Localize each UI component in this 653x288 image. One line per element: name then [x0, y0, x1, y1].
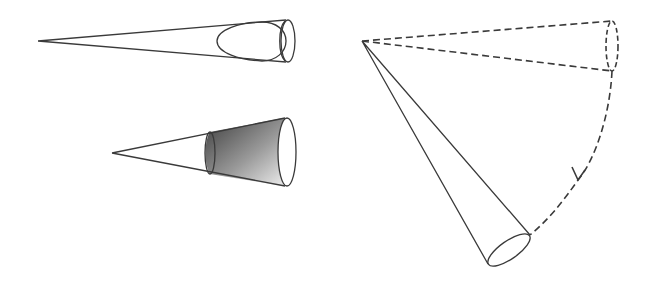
solid-cone-rim	[483, 228, 534, 271]
egg-cross-section	[217, 22, 286, 61]
solid-cone-outline	[362, 41, 530, 264]
rotating-cone-figure	[362, 21, 618, 272]
shaded-cone-figure	[112, 118, 296, 186]
rotation-path	[530, 71, 612, 235]
shaded-frustum	[206, 118, 290, 186]
diagram-canvas	[0, 0, 653, 288]
cone-rim	[281, 20, 295, 62]
cone-outline	[38, 20, 286, 62]
arrow-icon	[572, 167, 585, 180]
dashed-cone-outline	[362, 21, 612, 71]
dashed-cone-rim	[606, 21, 618, 71]
cone-with-egg-figure	[38, 20, 295, 62]
